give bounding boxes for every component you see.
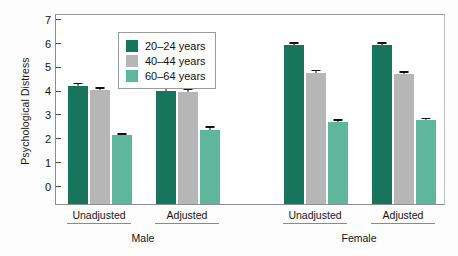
error-bar-stem (381, 42, 383, 45)
bar-fill (372, 45, 392, 204)
y-axis-tick-label: 7 (45, 14, 56, 26)
y-axis-tick-label: 6 (45, 38, 56, 50)
y-axis-tick: 2 (45, 129, 56, 147)
y-axis-tick-mark (56, 91, 61, 92)
y-axis-tick: 5 (45, 58, 56, 76)
error-bar-stem (209, 126, 211, 130)
error-bar-stem (121, 133, 123, 135)
error-bar (184, 88, 193, 92)
error-bar (312, 70, 321, 73)
legend-item: 60–64 years (126, 68, 206, 83)
error-bar (118, 133, 127, 135)
error-bar-stem (403, 71, 405, 74)
error-bar (74, 83, 83, 86)
y-axis-tick-label: 3 (45, 109, 56, 121)
bar (306, 73, 326, 204)
error-bar (422, 118, 431, 121)
legend-swatch-20-24-icon (126, 40, 138, 52)
x-axis-sublabel-rule (67, 223, 131, 224)
error-bar-stem (99, 87, 101, 90)
y-axis-tick-mark (56, 43, 61, 44)
bar-fill (328, 122, 348, 204)
chart-legend: 20–24 years 40–44 years 60–64 years (118, 32, 216, 89)
y-axis-title: Psychological Distress (19, 31, 31, 191)
error-bar-stem (337, 119, 339, 121)
error-bar (96, 87, 105, 90)
y-axis-tick-label: 1 (45, 157, 56, 169)
legend-item: 40–44 years (126, 53, 206, 68)
x-axis-sublabel-rule (155, 223, 219, 224)
bar (416, 120, 436, 204)
bar (68, 86, 88, 204)
y-axis-tick-mark (56, 19, 61, 20)
legend-item: 20–24 years (126, 38, 206, 53)
bar-fill (306, 73, 326, 204)
y-axis-tick-label: 0 (45, 181, 56, 193)
y-axis-tick-label: 4 (45, 85, 56, 97)
x-axis-sublabel-rule (371, 223, 435, 224)
bar-fill (178, 92, 198, 204)
y-axis-tick-label: 8 (45, 0, 56, 2)
bar (112, 135, 132, 204)
bar (178, 92, 198, 204)
bar-group (284, 15, 348, 204)
y-axis-tick: 1 (45, 153, 56, 171)
x-axis-sublabel-text: Unadjusted (283, 209, 347, 221)
error-bar-stem (425, 118, 427, 121)
bar (284, 45, 304, 204)
x-axis-sublabel-rule (283, 223, 347, 224)
y-axis-tick-mark (56, 67, 61, 68)
error-bar (400, 71, 409, 74)
x-axis-group-label: Female (283, 232, 435, 244)
bar-fill (416, 120, 436, 204)
error-bar-stem (77, 83, 79, 86)
bar-group (372, 15, 436, 204)
legend-label: 60–64 years (145, 70, 206, 82)
bar-fill (112, 135, 132, 204)
y-axis-tick: 7 (45, 10, 56, 28)
y-axis-tick-label: 5 (45, 61, 56, 73)
y-axis-tick-mark (56, 162, 61, 163)
y-axis-tick: 3 (45, 105, 56, 123)
y-axis-tick: 0 (45, 177, 56, 195)
bar (90, 90, 110, 204)
bar-fill (200, 130, 220, 204)
x-axis-group-label: Male (67, 232, 219, 244)
bar (328, 122, 348, 204)
y-axis-tick: 6 (45, 34, 56, 52)
bar-fill (68, 86, 88, 204)
error-bar-stem (187, 88, 189, 92)
y-axis-tick-label: 2 (45, 133, 56, 145)
x-axis-sublabel: Adjusted (155, 209, 219, 224)
y-axis-tick-mark (56, 138, 61, 139)
error-bar (334, 119, 343, 121)
x-axis-sublabel: Unadjusted (283, 209, 347, 224)
legend-label: 20–24 years (145, 40, 206, 52)
x-axis-sublabel-text: Unadjusted (67, 209, 131, 221)
error-bar (378, 42, 387, 45)
y-axis-tick-mark (56, 114, 61, 115)
error-bar (206, 126, 215, 130)
bar-fill (394, 74, 414, 204)
plot-area: 012345678 20–24 years 40–44 years 60–64 … (55, 14, 445, 205)
legend-swatch-40-44-icon (126, 55, 138, 67)
error-bar-stem (315, 70, 317, 73)
legend-label: 40–44 years (145, 55, 206, 67)
bar-fill (90, 90, 110, 204)
bar (200, 130, 220, 204)
x-axis-sublabel-text: Adjusted (155, 209, 219, 221)
y-axis-tick-mark (56, 186, 61, 187)
bar (372, 45, 392, 204)
bar-fill (284, 45, 304, 204)
error-bar-stem (293, 42, 295, 45)
y-axis-tick: 8 (45, 0, 56, 4)
bar (156, 91, 176, 204)
error-bar (290, 42, 299, 45)
x-axis-sublabel: Unadjusted (67, 209, 131, 224)
bar (394, 74, 414, 204)
x-axis-sublabel: Adjusted (371, 209, 435, 224)
x-axis-sublabel-text: Adjusted (371, 209, 435, 221)
legend-swatch-60-64-icon (126, 70, 138, 82)
y-axis-tick: 4 (45, 82, 56, 100)
bar-fill (156, 91, 176, 204)
